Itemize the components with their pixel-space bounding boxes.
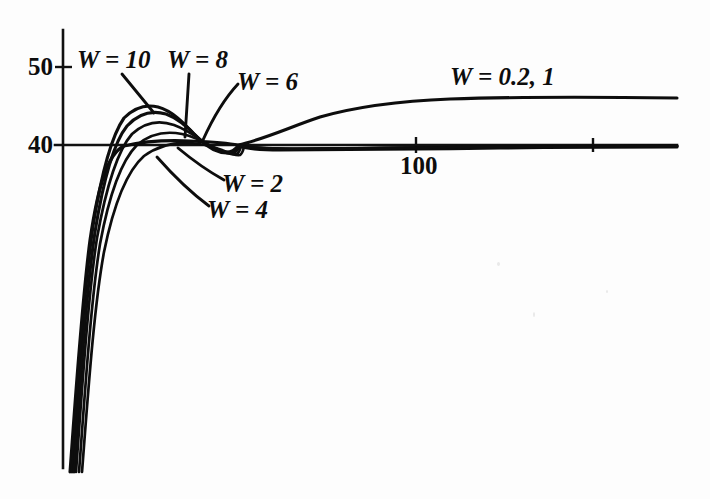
scan-speckle bbox=[606, 290, 608, 293]
curve-w-2 bbox=[82, 143, 677, 472]
curve-w-6 bbox=[76, 122, 677, 472]
scan-speckle bbox=[533, 312, 535, 317]
y-axis-label-50: 50 bbox=[28, 53, 53, 81]
series-label-w-2: W = 2 bbox=[222, 170, 283, 198]
scan-speckle bbox=[497, 262, 500, 266]
curve-w-10 bbox=[72, 106, 677, 472]
series-label-w-6: W = 6 bbox=[237, 68, 298, 96]
curve-w-4 bbox=[79, 133, 677, 472]
leader-line-w-6 bbox=[203, 84, 238, 140]
series-label-w-0p2-and-1: W = 0.2, 1 bbox=[450, 63, 555, 91]
curve-w-0p2-and-1 bbox=[70, 97, 677, 472]
series-label-w-8: W = 8 bbox=[167, 46, 228, 74]
x-axis-label-100: 100 bbox=[400, 152, 438, 180]
figure-container: 50 40 100 W = 10 W = 8 W = 6 W = 2 W = 4… bbox=[0, 0, 710, 499]
chart-canvas bbox=[0, 0, 710, 499]
series-label-w-10: W = 10 bbox=[77, 46, 151, 74]
y-axis-label-40: 40 bbox=[28, 131, 53, 159]
series-label-w-4: W = 4 bbox=[207, 196, 268, 224]
